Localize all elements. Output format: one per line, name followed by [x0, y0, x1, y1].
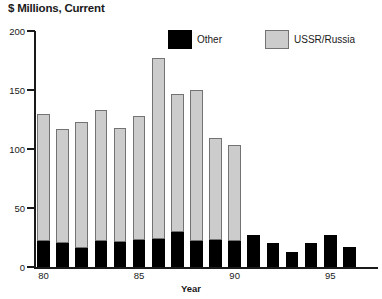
bar-1987: [171, 31, 184, 267]
bar-segment-other: [95, 241, 108, 267]
bar-1981: [56, 31, 69, 267]
bar-segment-other: [152, 239, 165, 267]
bar-segment-ussr-russia: [209, 138, 222, 239]
y-axis-tick-label: 100: [9, 144, 25, 155]
y-axis-tick-label: 150: [9, 85, 25, 96]
bar-1990: [228, 31, 241, 267]
x-axis-tick-label: 80: [38, 270, 49, 281]
bar-segment-other: [286, 252, 299, 267]
bar-1994: [305, 31, 318, 267]
bar-1996: [343, 31, 356, 267]
bar-segment-ussr-russia: [152, 58, 165, 239]
bar-segment-ussr-russia: [75, 122, 88, 248]
bar-1985: [133, 31, 146, 267]
bar-segment-ussr-russia: [133, 116, 146, 240]
bar-segment-ussr-russia: [56, 129, 69, 243]
bar-segment-other: [228, 241, 241, 267]
bar-1984: [114, 31, 127, 267]
bar-segment-other: [133, 240, 146, 267]
bar-segment-ussr-russia: [37, 114, 50, 241]
x-axis-tick-label: 90: [229, 270, 240, 281]
bar-segment-other: [114, 242, 127, 267]
plot-area: [34, 31, 378, 267]
bar-segment-other: [75, 248, 88, 267]
bar-segment-ussr-russia: [228, 145, 241, 241]
bar-segment-ussr-russia: [190, 90, 203, 241]
x-axis-title: Year: [0, 283, 382, 294]
bar-1988: [190, 31, 203, 267]
bar-1982: [75, 31, 88, 267]
bar-segment-ussr-russia: [171, 94, 184, 232]
bar-1992: [267, 31, 280, 267]
bar-segment-other: [171, 232, 184, 267]
x-axis-tick-label: 85: [134, 270, 145, 281]
x-axis-tick-label: 95: [325, 270, 336, 281]
bar-1991: [247, 31, 260, 267]
bar-segment-other: [37, 241, 50, 267]
bar-segment-other: [190, 241, 203, 267]
bar-segment-other: [247, 235, 260, 267]
bar-segment-other: [209, 240, 222, 267]
bar-1980: [37, 31, 50, 267]
chart-title: $ Millions, Current: [8, 2, 105, 14]
bar-1983: [95, 31, 108, 267]
bar-segment-other: [56, 243, 69, 267]
bar-segment-other: [343, 247, 356, 267]
bar-segment-ussr-russia: [95, 110, 108, 241]
bar-1986: [152, 31, 165, 267]
x-axis-line: [34, 267, 378, 269]
bar-1989: [209, 31, 222, 267]
y-axis-tick-label: 200: [9, 26, 25, 37]
bar-segment-ussr-russia: [114, 128, 127, 242]
bar-1997: [362, 31, 375, 267]
bar-segment-other: [324, 235, 337, 267]
bar-segment-other: [305, 243, 318, 267]
bar-segment-other: [267, 243, 280, 267]
bar-1995: [324, 31, 337, 267]
bar-1993: [286, 31, 299, 267]
y-axis-tick-label: 50: [14, 203, 25, 214]
y-axis-tick-label: 0: [20, 262, 25, 273]
